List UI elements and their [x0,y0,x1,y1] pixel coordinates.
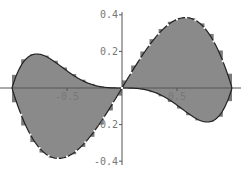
y-tick-label: -0.4 [94,156,118,167]
y-tick-label: 0.4 [100,9,118,20]
x-tick-label: -0.5 [55,91,79,102]
plot-canvas: 0.40.2-0.2-0.4-0.50.5 [0,0,241,169]
y-tick-label: 0.2 [100,46,118,57]
x-tick-label: 0.5 [168,91,186,102]
region-plot: 0.40.2-0.2-0.4-0.50.5 [0,0,241,169]
y-tick-label: -0.2 [94,119,118,130]
